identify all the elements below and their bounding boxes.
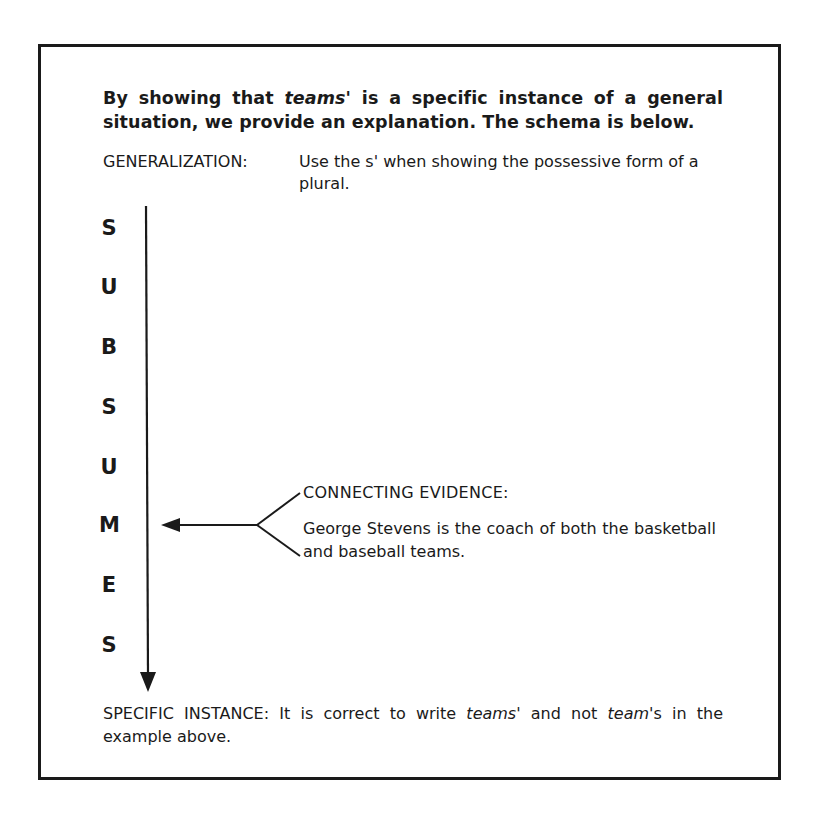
connecting-arrow-icon <box>161 493 300 556</box>
specific-instance-text-2: ' and not <box>516 704 607 723</box>
subsumes-down-arrow-icon <box>140 206 156 692</box>
diagram-arrows <box>0 0 816 820</box>
connecting-evidence-label: CONNECTING EVIDENCE: <box>303 482 509 504</box>
specific-instance-text-1: SPECIFIC INSTANCE: It is correct to writ… <box>103 704 466 723</box>
specific-instance: SPECIFIC INSTANCE: It is correct to writ… <box>103 702 723 748</box>
specific-instance-italic-1: teams <box>466 704 516 723</box>
connecting-evidence-text: George Stevens is the coach of both the … <box>303 517 716 563</box>
specific-instance-italic-2: team <box>608 704 650 723</box>
